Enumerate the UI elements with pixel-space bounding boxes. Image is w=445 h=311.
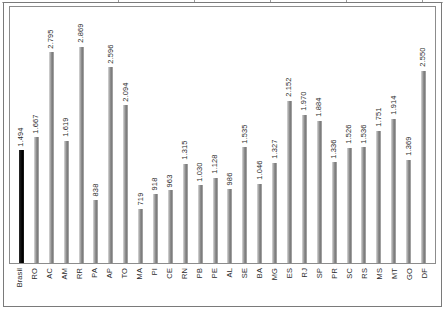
bar-value-label: 1.536 [360,124,368,143]
bar [272,163,277,263]
bar [376,131,381,263]
bar-value-label: 1.970 [300,91,308,110]
bar-value-label: 1.336 [330,139,338,158]
bar-value-label: 1.369 [405,136,413,155]
bar [198,185,203,263]
category-slot: RS [357,266,372,306]
category-slot: PE [208,266,223,306]
category-slot: SC [342,266,357,306]
category-slot: MT [387,266,402,306]
bar-slot: 1.535 [237,7,252,263]
bar [421,71,426,263]
bar [287,101,292,263]
category-axis-label: SE [241,268,249,278]
bar-value-label: 1.667 [32,114,40,133]
bar-slot: 1.030 [193,7,208,263]
bar-slot: 1.369 [401,7,416,263]
bar-slot: 838 [88,7,103,263]
category-slot: RR [73,266,88,306]
bar-value-label: 838 [92,184,100,197]
bar-slot: 1.046 [252,7,267,263]
category-slot: PB [193,266,208,306]
bar [406,160,411,263]
bar-slot: 963 [163,7,178,263]
category-axis-label: MA [136,268,144,279]
bar-value-label: 2.550 [419,48,427,67]
category-axis-label: SP [316,268,324,278]
category-axis: BrasilROACAMRRPAAPTOMAPICERNPBPEALSEBAMG… [9,266,436,306]
category-axis-label: AC [46,268,54,279]
category-axis-label: PE [211,268,219,278]
bar [183,164,188,263]
bar [391,119,396,263]
bar-value-label: 1.128 [211,155,219,174]
bar-slot: 1.914 [386,7,401,263]
bar-value-label: 2.596 [107,44,115,63]
category-axis-label: RJ [301,268,309,277]
category-slot: MG [267,266,282,306]
category-axis-label: PI [151,268,159,275]
category-slot: MA [133,266,148,306]
category-slot: BA [253,266,268,306]
bar [347,148,352,263]
category-slot: RO [28,266,43,306]
category-slot: MS [372,266,387,306]
bar-slot: 1.494 [14,7,29,263]
plot-area: 1.4941.6672.7951.6192.8698382.5962.09471… [9,6,436,264]
bar [108,67,113,263]
category-axis-label: RO [31,268,39,279]
category-slot: AL [223,266,238,306]
bar-slot: 1.327 [267,7,282,263]
category-axis-label: MG [271,268,279,280]
category-slot: SE [238,266,253,306]
category-axis-label: MT [391,268,399,279]
category-axis-label: PB [196,268,204,278]
bar-value-label: 1.884 [315,98,323,117]
bar-value-label: 1.046 [256,161,264,180]
bar [79,47,84,263]
category-slot: DF [417,266,432,306]
bar-value-label: 1.526 [345,125,353,144]
category-slot: PA [88,266,103,306]
category-slot: CE [163,266,178,306]
bar [332,162,337,263]
bar-slot: 2.795 [44,7,59,263]
bar-slot: 719 [133,7,148,263]
bar-value-label: 719 [137,193,145,206]
category-axis-label: AL [226,268,234,277]
bar-slot: 2.550 [416,7,431,263]
bar [213,178,218,263]
bar-value-label: 1.327 [271,140,279,159]
bar-slot: 1.667 [29,7,44,263]
bar [361,147,366,263]
bar [93,200,98,263]
bar [302,115,307,263]
bar [227,189,232,263]
bar-slot: 918 [148,7,163,263]
category-slot: AM [58,266,73,306]
category-axis-label: RS [361,268,369,279]
category-slot: PI [148,266,163,306]
category-slot: RJ [297,266,312,306]
bar-value-label: 2.094 [122,82,130,101]
category-axis-label: RN [181,268,189,279]
bar [153,194,158,263]
category-slot: GO [402,266,417,306]
category-slot: SP [312,266,327,306]
bar [168,190,173,263]
bar-value-label: 1.535 [241,124,249,143]
bar-slot: 1.751 [371,7,386,263]
bar-value-label: 1.619 [62,118,70,137]
category-axis-label: CE [166,268,174,279]
bar-value-label: 986 [226,173,234,186]
bar-slot: 1.128 [208,7,223,263]
bar-value-label: 963 [166,175,174,188]
bar-value-label: 1.751 [375,108,383,127]
bar [257,184,262,263]
bar-slot: 2.869 [74,7,89,263]
category-axis-label: TO [121,268,129,278]
category-axis-label: GO [406,268,414,280]
bar-slot: 1.619 [59,7,74,263]
bar-slot: 1.884 [312,7,327,263]
bar [138,209,143,263]
